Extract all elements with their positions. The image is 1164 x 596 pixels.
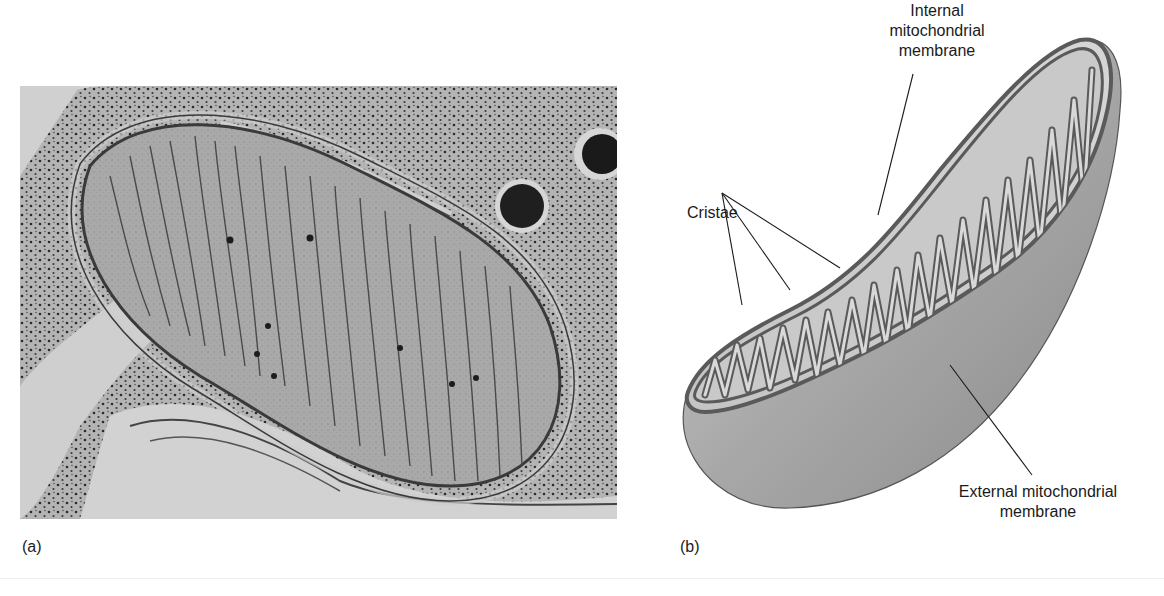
internal-membrane-leader-line	[878, 74, 913, 215]
cristae-label: Cristae	[687, 203, 738, 223]
internal-label-line-2: mitochondrial	[877, 21, 997, 41]
external-label-line-2: membrane	[928, 502, 1148, 522]
micrograph-panel	[20, 86, 617, 519]
internal-membrane-label: Internal mitochondrial membrane	[877, 1, 997, 61]
panel-a-caption: (a)	[22, 538, 42, 556]
mitochondrion-micrograph	[20, 86, 617, 519]
external-label-line-1: External mitochondrial	[928, 482, 1148, 502]
panel-b-caption: (b)	[680, 538, 700, 556]
bottom-divider	[0, 578, 1164, 579]
internal-label-line-3: membrane	[877, 41, 997, 61]
external-membrane-label: External mitochondrial membrane	[928, 482, 1148, 522]
internal-label-line-1: Internal	[877, 1, 997, 21]
cristae-leader-line-3	[722, 193, 840, 268]
